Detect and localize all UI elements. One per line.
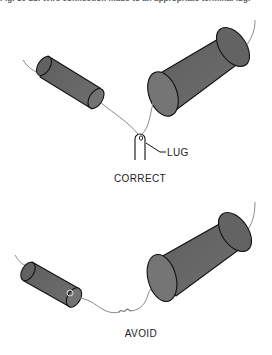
twisted-wire-splice [119, 309, 132, 312]
large-cylinder-component [142, 22, 256, 121]
large-cylinder-component [142, 207, 258, 305]
large-component-right-lead [246, 20, 255, 46]
correct-panel-title: CORRECT [114, 173, 166, 184]
lug-leader-line [146, 143, 166, 152]
small-cylinder-component [18, 260, 85, 310]
avoid-panel: AVOID [15, 202, 258, 339]
avoid-panel-title: AVOID [125, 328, 157, 339]
terminal-lug [135, 134, 145, 160]
wire-small-to-lug [101, 103, 138, 134]
lug-callout-label: LUG [167, 147, 189, 158]
wiring-diagram: LUG CORRECT AVOID [0, 0, 272, 355]
wire-large-to-lug [142, 103, 153, 134]
small-cylinder-component [33, 54, 107, 111]
wire-small-to-splice [80, 298, 120, 313]
wire-splice-to-large [132, 289, 151, 311]
correct-panel: LUG CORRECT [23, 20, 256, 184]
